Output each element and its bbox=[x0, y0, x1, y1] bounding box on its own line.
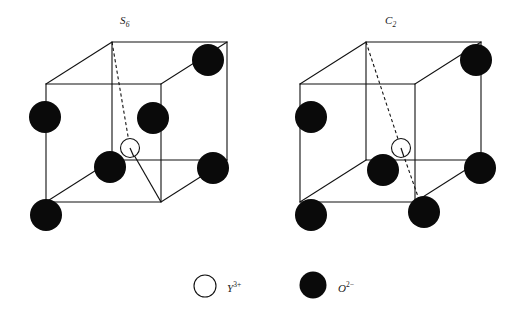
legend-label-yttrium: Y3+ bbox=[227, 280, 241, 294]
legend-marker-oxygen bbox=[300, 272, 327, 299]
legend bbox=[0, 0, 525, 318]
legend-species-charge-o: 2− bbox=[346, 280, 354, 289]
legend-species-symbol-o: O bbox=[338, 282, 346, 294]
legend-marker-yttrium bbox=[194, 275, 216, 297]
legend-label-oxygen: O2− bbox=[338, 280, 354, 294]
figure-canvas: S6 C2 bbox=[0, 0, 525, 318]
legend-species-charge-y: 3+ bbox=[233, 280, 241, 289]
